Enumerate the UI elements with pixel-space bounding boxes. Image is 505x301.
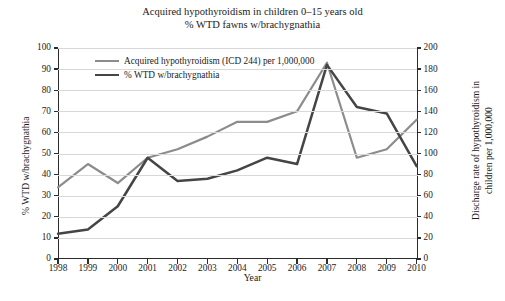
left-axis-tick [54, 90, 59, 91]
left-axis-tick-label: 20 [42, 212, 51, 221]
legend-swatch-icon [95, 60, 119, 62]
legend-label: % WTD w/brachygnathia [124, 68, 219, 82]
gridline [58, 90, 418, 91]
right-axis-title-line-1: Discharge rate of hypothyroidism in [470, 43, 481, 258]
left-axis-tick-label: 70 [42, 107, 51, 116]
right-axis-tick-label: 100 [424, 149, 438, 158]
right-axis-tick [417, 90, 422, 91]
left-axis-tick [54, 111, 59, 112]
left-axis-tick [54, 68, 59, 69]
legend-item: Acquired hypothyroidism (ICD 244) per 1,… [95, 54, 314, 68]
chart-title: Acquired hypothyroidism in children 0–15… [0, 5, 505, 31]
right-axis-tick [417, 216, 422, 217]
legend-item: % WTD w/brachygnathia [95, 68, 314, 82]
left-axis-tick-label: 50 [42, 149, 51, 158]
left-axis-tick [54, 237, 59, 238]
gridline [58, 238, 418, 239]
left-axis-tick [54, 132, 59, 133]
chart-legend: Acquired hypothyroidism (ICD 244) per 1,… [95, 54, 314, 82]
left-axis-tick-label: 30 [42, 191, 51, 200]
gridline [58, 154, 418, 155]
left-axis-tick [54, 174, 59, 175]
left-axis-title: % WTD w/brachygnathia [20, 117, 31, 215]
right-axis-tick-label: 120 [424, 128, 438, 137]
chart-figure: Acquired hypothyroidism in children 0–15… [0, 0, 505, 301]
right-axis-tick [417, 47, 422, 48]
right-axis-tick-label: 60 [424, 191, 433, 200]
left-axis-tick-label: 100 [37, 43, 51, 52]
left-axis-tick-label: 80 [42, 86, 51, 95]
right-axis-title-line-2: children per 1,000,000 [483, 43, 494, 258]
chart-title-line-1: Acquired hypothyroidism in children 0–15… [0, 5, 505, 18]
right-axis-tick-label: 140 [424, 107, 438, 116]
left-axis-tick [54, 195, 59, 196]
left-axis-tick [54, 216, 59, 217]
left-axis-tick-label: 40 [42, 170, 51, 179]
gridline [58, 132, 418, 133]
right-axis-tick-label: 160 [424, 86, 438, 95]
right-axis-tick [417, 237, 422, 238]
left-axis-tick-label: 60 [42, 128, 51, 137]
right-axis-tick-label: 80 [424, 170, 433, 179]
right-axis-tick-label: 200 [424, 43, 438, 52]
right-axis-tick [417, 174, 422, 175]
right-axis-tick [417, 132, 422, 133]
right-axis-tick-label: 40 [424, 212, 433, 221]
legend-label: Acquired hypothyroidism (ICD 244) per 1,… [124, 54, 314, 68]
x-axis-title: Year [0, 272, 505, 283]
left-axis-tick [54, 47, 59, 48]
left-axis-tick-label: 10 [42, 233, 51, 242]
gridline [58, 111, 418, 112]
right-axis-tick [417, 153, 422, 154]
right-axis-tick [417, 195, 422, 196]
left-axis-tick-label: 90 [42, 65, 51, 74]
gridline [58, 48, 418, 49]
left-axis-tick [54, 153, 59, 154]
right-axis-tick [417, 111, 422, 112]
gridline [58, 196, 418, 197]
right-axis-tick-label: 20 [424, 233, 433, 242]
right-axis-tick [417, 68, 422, 69]
legend-swatch-icon [95, 74, 119, 76]
gridline [58, 217, 418, 218]
gridline [58, 175, 418, 176]
right-axis-tick [417, 258, 422, 259]
right-axis-tick-label: 180 [424, 65, 438, 74]
chart-title-line-2: % WTD fawns w/brachygnathia [0, 18, 505, 31]
